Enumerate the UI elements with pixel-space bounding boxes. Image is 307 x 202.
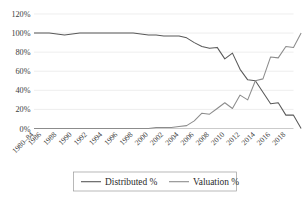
line-chart: 0%20%40%60%80%100%120% 1980–841986198819… xyxy=(0,0,307,202)
y-axis-tick-label: 60% xyxy=(15,67,30,76)
y-axis-tick-label: 20% xyxy=(15,105,30,114)
y-axis-tick-label: 100% xyxy=(11,29,30,38)
legend-label-distributed: Distributed % xyxy=(105,177,158,187)
legend-label-valuation: Valuation % xyxy=(193,177,239,187)
y-axis-tick-label: 80% xyxy=(15,48,30,57)
y-axis-tick-label: 40% xyxy=(15,86,30,95)
y-axis-tick-label: 120% xyxy=(11,10,30,19)
chart-legend: Distributed %Valuation % xyxy=(74,172,240,191)
chart-canvas: 0%20%40%60%80%100%120% 1980–841986198819… xyxy=(0,0,307,202)
